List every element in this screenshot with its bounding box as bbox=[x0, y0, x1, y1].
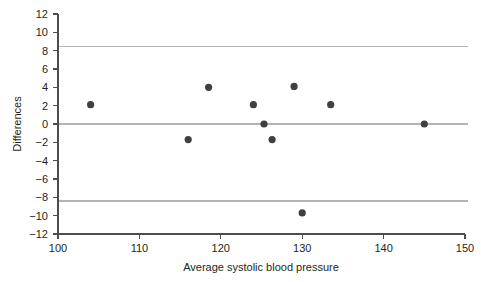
bland-altman-scatter-plot: 12 10 8 6 4 2 0 −2 −4 −6 −8 −10 −12 100 … bbox=[0, 0, 481, 282]
y-tick-label: 12 bbox=[36, 8, 48, 20]
x-tick-label: 140 bbox=[374, 242, 392, 254]
x-tick-label: 120 bbox=[212, 242, 230, 254]
y-tick-label: 6 bbox=[42, 63, 48, 75]
data-point bbox=[269, 136, 276, 143]
y-tick-label: −8 bbox=[35, 191, 48, 203]
y-tick-label: −4 bbox=[35, 155, 48, 167]
y-tick-label: 10 bbox=[36, 26, 48, 38]
x-tick-label: 100 bbox=[49, 242, 67, 254]
chart-svg: 12 10 8 6 4 2 0 −2 −4 −6 −8 −10 −12 100 … bbox=[0, 0, 481, 282]
y-tick-label: 0 bbox=[42, 118, 48, 130]
data-point bbox=[87, 101, 94, 108]
x-tick-label: 150 bbox=[456, 242, 474, 254]
data-point bbox=[291, 83, 298, 90]
data-point bbox=[260, 120, 267, 127]
data-point bbox=[185, 136, 192, 143]
y-tick-label: 8 bbox=[42, 45, 48, 57]
y-tick-label: 2 bbox=[42, 100, 48, 112]
y-axis-title: Differences bbox=[11, 96, 23, 152]
chart-background bbox=[0, 0, 481, 282]
data-point bbox=[250, 101, 257, 108]
data-point bbox=[299, 209, 306, 216]
y-tick-label: −10 bbox=[29, 210, 48, 222]
data-point bbox=[205, 84, 212, 91]
data-point bbox=[421, 120, 428, 127]
x-tick-label: 110 bbox=[131, 242, 149, 254]
data-point bbox=[327, 101, 334, 108]
y-tick-label: 4 bbox=[42, 81, 48, 93]
x-axis-title: Average systolic blood pressure bbox=[183, 261, 339, 273]
y-tick-label: −2 bbox=[35, 136, 48, 148]
x-tick-label: 130 bbox=[293, 242, 311, 254]
y-tick-label: −6 bbox=[35, 173, 48, 185]
y-tick-label: −12 bbox=[29, 228, 48, 240]
